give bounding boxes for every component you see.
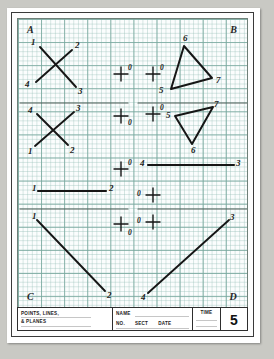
point-label: 1 — [28, 147, 33, 156]
point-label: 5 — [159, 86, 164, 95]
drawing-title-line2: & PLANES — [21, 318, 109, 326]
worksheet-page: A B C D — [7, 8, 260, 343]
title-block-description-cell: POINTS, LINES, & PLANES — [18, 308, 113, 330]
point-label: 2 — [109, 184, 114, 193]
point-label-zero: 0 — [128, 63, 132, 72]
time-write-rule — [196, 320, 217, 321]
date-field-label: DATE — [158, 320, 171, 328]
name-write-rule — [135, 316, 189, 317]
point-label-zero: 0 — [137, 216, 141, 225]
sheet-number: 5 — [230, 312, 238, 328]
point-label-zero: 0 — [137, 189, 141, 198]
point-label: 3 — [78, 87, 83, 96]
point-label: 4 — [141, 293, 146, 302]
drawing-geometry — [18, 19, 248, 309]
grid-drawing-field[interactable]: A B C D — [17, 18, 248, 309]
point-label: 1 — [32, 184, 37, 193]
point-label-zero: 0 — [128, 118, 132, 127]
write-rule — [21, 317, 91, 318]
point-label: 1 — [31, 38, 36, 47]
title-block: POINTS, LINES, & PLANES NAME NO. SECT DA… — [17, 307, 248, 331]
point-label: 2 — [107, 291, 112, 300]
name-cell-subrow: NO. SECT DATE — [116, 320, 181, 328]
point-label: 7 — [216, 76, 221, 85]
point-label: 4 — [25, 80, 30, 89]
point-label: 3 — [76, 104, 81, 113]
point-label-zero: 0 — [128, 228, 132, 237]
point-label: 5 — [166, 111, 171, 120]
subrow-write-rule — [116, 328, 189, 329]
sect-field-label: SECT — [135, 320, 148, 328]
point-label: 2 — [75, 41, 80, 50]
point-label-zero: 0 — [160, 103, 164, 112]
point-label-zero: 0 — [128, 158, 132, 167]
drawing-frame: A B C D — [11, 12, 254, 337]
point-label-zero: 0 — [160, 63, 164, 72]
title-block-name-cell[interactable]: NAME NO. SECT DATE — [113, 308, 193, 330]
point-label: 6 — [183, 34, 188, 43]
time-write-rule — [196, 326, 217, 327]
point-label: 4 — [28, 106, 33, 115]
point-label: 1 — [32, 212, 37, 221]
point-label: 3 — [230, 213, 235, 222]
point-label: 7 — [214, 100, 219, 109]
time-field-label: TIME — [196, 310, 217, 315]
write-rule — [21, 326, 91, 327]
no-field-label: NO. — [116, 320, 125, 328]
point-label: 3 — [236, 159, 241, 168]
point-label: 2 — [70, 146, 75, 155]
title-block-time-cell[interactable]: TIME — [193, 308, 221, 330]
point-label: 4 — [140, 159, 145, 168]
title-block-sheet-number-cell: 5 — [221, 308, 247, 330]
point-label: 6 — [191, 146, 196, 155]
